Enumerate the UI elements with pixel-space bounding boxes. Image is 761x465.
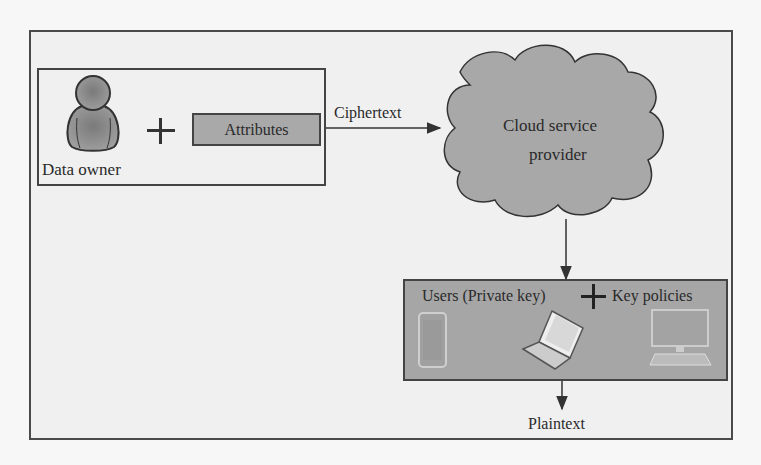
- plaintext-label: Plaintext: [528, 415, 585, 433]
- plus-icon: [581, 284, 606, 309]
- smartphone-icon: [419, 313, 446, 367]
- users-icons: [0, 0, 761, 465]
- laptop-icon: [523, 311, 583, 369]
- desktop-computer-icon: [650, 310, 711, 365]
